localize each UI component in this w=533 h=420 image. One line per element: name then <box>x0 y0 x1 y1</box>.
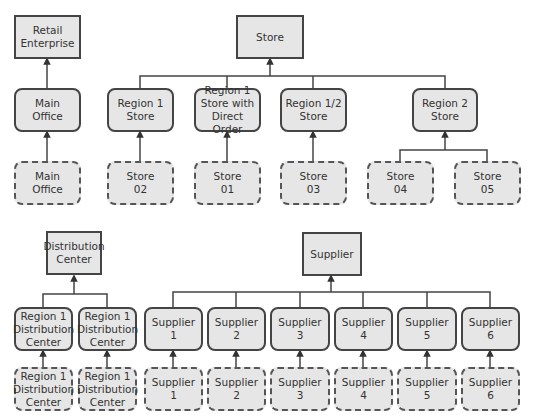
node-supplier-1-instance[interactable]: Supplier 1 <box>144 367 203 411</box>
node-store[interactable]: Store <box>236 15 304 59</box>
node-supplier-6[interactable]: Supplier 6 <box>461 307 520 351</box>
node-store-03[interactable]: Store 03 <box>280 161 347 205</box>
node-supplier-2[interactable]: Supplier 2 <box>207 307 266 351</box>
node-region1-dc-b-instance[interactable]: Region 1 Distribution Center <box>78 367 137 411</box>
node-region1-dc-b[interactable]: Region 1 Distribution Center <box>78 307 137 351</box>
connector-lines <box>0 0 533 420</box>
node-supplier-3-instance[interactable]: Supplier 3 <box>270 367 330 411</box>
node-distribution-center[interactable]: Distribution Center <box>46 231 102 275</box>
node-supplier-4[interactable]: Supplier 4 <box>334 307 393 351</box>
node-store-04[interactable]: Store 04 <box>367 161 434 205</box>
node-region1-store-direct-order[interactable]: Region 1 Store with Direct Order <box>194 88 261 132</box>
node-region12-store[interactable]: Region 1/2 Store <box>280 88 347 132</box>
node-main-office-instance[interactable]: Main Office <box>14 161 81 205</box>
node-main-office[interactable]: Main Office <box>14 88 81 132</box>
node-region1-dc-a[interactable]: Region 1 Distribution Center <box>14 307 73 351</box>
node-supplier-1[interactable]: Supplier 1 <box>144 307 203 351</box>
node-store-02[interactable]: Store 02 <box>107 161 174 205</box>
node-supplier-6-instance[interactable]: Supplier 6 <box>461 367 520 411</box>
node-region2-store[interactable]: Region 2 Store <box>412 88 478 132</box>
node-region1-dc-a-instance[interactable]: Region 1 Distribution Center <box>14 367 73 411</box>
node-retail-enterprise[interactable]: Retail Enterprise <box>14 15 81 59</box>
node-supplier-5[interactable]: Supplier 5 <box>397 307 457 351</box>
node-supplier-4-instance[interactable]: Supplier 4 <box>334 367 393 411</box>
node-store-05[interactable]: Store 05 <box>454 161 521 205</box>
node-supplier-5-instance[interactable]: Supplier 5 <box>397 367 457 411</box>
node-region1-store[interactable]: Region 1 Store <box>107 88 174 132</box>
node-supplier-3[interactable]: Supplier 3 <box>270 307 330 351</box>
node-supplier[interactable]: Supplier <box>302 232 362 276</box>
node-supplier-2-instance[interactable]: Supplier 2 <box>207 367 266 411</box>
node-store-01[interactable]: Store 01 <box>194 161 261 205</box>
